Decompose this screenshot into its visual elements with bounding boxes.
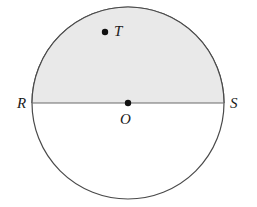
shaded-upper-semicircle — [32, 7, 224, 103]
point-label-T: T — [114, 24, 122, 39]
center-point-dot-O — [125, 100, 131, 106]
circle-diagram-figure: R S T O — [0, 0, 257, 207]
point-label-O: O — [120, 112, 131, 127]
circle-diagram-canvas — [0, 0, 257, 207]
point-label-R: R — [17, 96, 26, 111]
point-dot-T — [102, 29, 108, 35]
point-label-S: S — [230, 96, 238, 111]
